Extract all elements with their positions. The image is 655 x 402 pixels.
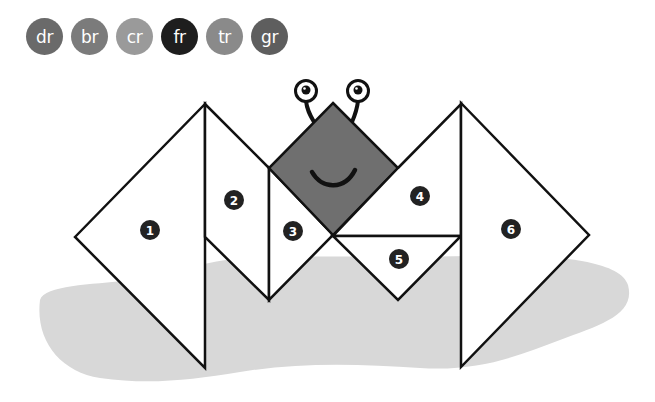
- number-badge-4: 4: [410, 186, 430, 206]
- eye-left: [296, 81, 317, 123]
- number-badge-3: 3: [283, 221, 303, 241]
- number-badge-2: 2: [224, 190, 244, 210]
- number-badge-5: 5: [389, 249, 409, 269]
- svg-text:3: 3: [289, 225, 297, 239]
- svg-text:1: 1: [146, 224, 154, 238]
- eye-right: [348, 81, 369, 123]
- number-badge-6: 6: [501, 219, 521, 239]
- svg-text:5: 5: [395, 253, 403, 267]
- svg-text:4: 4: [416, 190, 424, 204]
- tangram-crab-scene: 1 2 3 4 5 6: [0, 0, 655, 402]
- number-badge-1: 1: [140, 220, 160, 240]
- svg-text:2: 2: [230, 194, 238, 208]
- svg-text:6: 6: [507, 223, 515, 237]
